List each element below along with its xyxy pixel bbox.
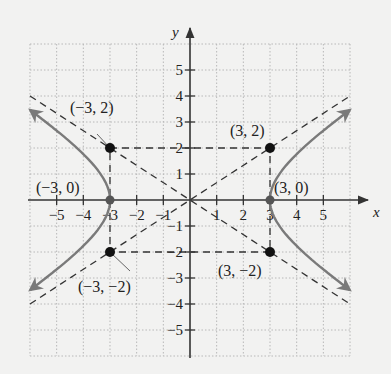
y-tick-label: 2 [176,140,184,156]
point-marker [265,143,275,153]
y-tick-label: −4 [167,296,183,312]
x-tick-label: 4 [293,207,301,223]
point-marker [266,196,275,205]
y-tick-label: −2 [167,244,183,260]
x-axis-label: x [372,204,380,220]
point-label: (−3, 0) [36,179,80,197]
hyperbola-chart: xy −5−4−3−2−11234554321−1−2−3−4−5 (−3, 2… [0,0,391,374]
point-label: (−3, 2) [70,99,114,117]
y-tick-label: 3 [176,114,184,130]
y-tick-label: 1 [176,166,184,182]
x-tick-label: 1 [213,207,221,223]
hyperbola-right-branch-lower [270,200,350,290]
y-tick-label: −5 [167,322,183,338]
x-tick-label: 2 [240,207,248,223]
y-tick-label: −3 [167,270,183,286]
point-label: (3, 0) [274,179,309,197]
x-tick-label: 5 [320,207,328,223]
y-axis-label: y [170,24,179,40]
y-tick-label: −1 [167,218,183,234]
labeled-points: (−3, 2)(3, 2)(−3, −2)(3, −2)(−3, 0)(3, 0… [36,99,309,296]
hyperbola-left-branch-lower [31,200,111,290]
y-tick-label: 5 [176,62,184,78]
point-marker [105,196,114,205]
x-tick-label: −4 [75,207,91,223]
point-marker [105,143,115,153]
chart-canvas: xy −5−4−3−2−11234554321−1−2−3−4−5 (−3, 2… [0,0,391,374]
point-label: (−3, −2) [78,278,131,296]
y-tick-label: 4 [176,88,184,104]
x-tick-label: −5 [49,207,65,223]
x-tick-label: −2 [129,207,145,223]
point-marker [105,247,115,257]
point-label: (3, −2) [218,262,262,280]
point-label: (3, 2) [230,122,265,140]
point-marker [265,247,275,257]
